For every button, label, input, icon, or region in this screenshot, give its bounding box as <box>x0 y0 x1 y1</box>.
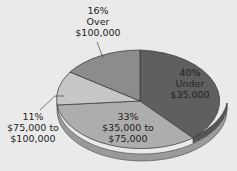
leader-line-16 <box>97 42 103 58</box>
label-text2: $100,000 <box>68 27 128 38</box>
label-text: Under <box>160 78 220 89</box>
label-text2: $75,000 <box>96 133 160 144</box>
label-40: 40% Under $35,000 <box>160 67 220 100</box>
label-text: $75,000 to <box>2 122 64 133</box>
label-text2: $100,000 <box>2 133 64 144</box>
label-pct: 11% <box>2 111 64 122</box>
label-33: 33% $35,000 to $75,000 <box>96 111 160 144</box>
leader-line-11 <box>40 96 55 110</box>
label-text2: $35,000 <box>160 89 220 100</box>
label-pct: 40% <box>160 67 220 78</box>
label-11: 11% $75,000 to $100,000 <box>2 111 64 144</box>
label-16: 16% Over $100,000 <box>68 5 128 38</box>
label-text: $35,000 to <box>96 122 160 133</box>
label-text: Over <box>68 16 128 27</box>
label-pct: 16% <box>68 5 128 16</box>
label-pct: 33% <box>96 111 160 122</box>
